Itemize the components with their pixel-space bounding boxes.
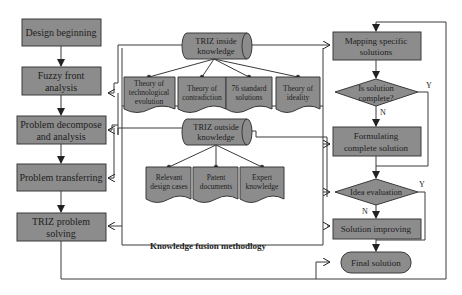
doc-expert-2: knowledge xyxy=(246,182,280,191)
doc-ideality-1: Theory of xyxy=(283,84,313,93)
diagram-canvas: Design beginning Fuzzy front analysis Pr… xyxy=(0,0,462,295)
label-transferring: Problem transferring xyxy=(19,172,102,183)
doc-contra-1: Theory of xyxy=(187,84,217,93)
label-triz-solving-1: TRIZ problem xyxy=(32,216,90,227)
label-y-2: Y xyxy=(419,180,425,189)
doc-tech-2: technological xyxy=(129,88,169,97)
label-formulating-2: complete solution xyxy=(344,143,409,153)
doc-patent-2: documents xyxy=(200,182,233,191)
doc-ideality-2: ideality xyxy=(287,93,310,102)
label-inside-2: knowledge xyxy=(197,46,235,56)
label-decompose-1: Problem decompose xyxy=(20,119,102,130)
label-complete-2: complete? xyxy=(359,93,394,103)
doc-patent-1: Patent xyxy=(207,173,227,182)
label-final: Final solution xyxy=(351,258,401,268)
label-triz-solving-2: solving xyxy=(46,228,75,239)
label-mapping-1: Mapping specific xyxy=(345,36,408,46)
label-complete-1: Is solution xyxy=(358,83,394,93)
label-mapping-2: solutions xyxy=(360,47,393,57)
doc-cases-1: Relevant xyxy=(156,173,184,182)
label-fuzzy-2: analysis xyxy=(45,82,77,93)
diagram-caption: Knowledge fusion methodlogy xyxy=(150,241,267,251)
label-n-2: N xyxy=(362,207,368,216)
doc-tech-1: Theory of xyxy=(134,79,164,88)
label-inside-1: TRIZ inside xyxy=(195,36,237,46)
label-y-1: Y xyxy=(426,81,432,90)
label-n-1: N xyxy=(380,108,386,117)
label-formulating-1: Formulating xyxy=(354,131,399,141)
label-outside-1: TRIZ outside xyxy=(193,122,239,132)
label-improving: Solution improving xyxy=(341,224,412,234)
doc-cases-2: design cases xyxy=(150,182,187,191)
label-idea-eval: Idea evaluation xyxy=(350,187,403,197)
doc-tech-3: evolution xyxy=(135,97,164,106)
label-decompose-2: and analysis xyxy=(36,131,85,142)
doc-contra-2: contradiction xyxy=(182,93,222,102)
left-flow xyxy=(17,19,330,279)
label-design-beginning: Design beginning xyxy=(26,27,97,38)
doc-76-2: solutions xyxy=(235,93,262,102)
label-outside-2: knowledge xyxy=(197,132,235,142)
doc-expert-1: Expert xyxy=(252,173,273,182)
doc-76-1: 76 standard xyxy=(232,84,267,93)
label-fuzzy-1: Fuzzy front xyxy=(38,70,85,81)
